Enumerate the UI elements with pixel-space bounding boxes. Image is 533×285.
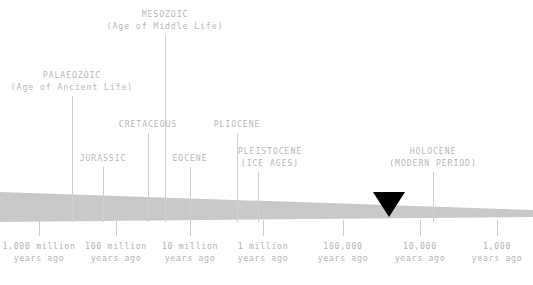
geological-timeline-figure: PALAEOZOIC(Age of Ancient Life)MESOZOIC(… xyxy=(0,0,533,285)
axis-tick-1000-million xyxy=(39,220,40,236)
era-label-line1: JURASSIC xyxy=(80,153,127,163)
axis-tick-1-thousand xyxy=(497,220,498,236)
axis-label-value: 1,000 million xyxy=(2,241,75,251)
era-label-pliocene: PLIOCENE xyxy=(214,119,261,131)
era-label-line1: EOCENE xyxy=(173,153,208,163)
axis-label-value: 1 million xyxy=(238,241,289,251)
era-label-holocene: HOLOCENE(MODERN PERIOD) xyxy=(389,146,476,169)
axis-tick-1-million xyxy=(263,220,264,236)
axis-label-value: 1,000 xyxy=(483,241,511,251)
era-label-eocene: EOCENE xyxy=(173,153,208,165)
axis-label-1000-million: 1,000 millionyears ago xyxy=(2,240,75,264)
leader-line-holocene xyxy=(433,172,434,222)
present-day-marker-icon xyxy=(373,192,405,217)
axis-label-unit: years ago xyxy=(162,252,218,264)
leader-line-eocene xyxy=(190,167,191,222)
axis-label-value: 100 million xyxy=(85,241,147,251)
axis-label-value: 10 million xyxy=(162,241,218,251)
leader-line-pleistocene xyxy=(258,172,259,222)
axis-tick-100-thousand xyxy=(343,220,344,236)
axis-label-unit: years ago xyxy=(472,252,523,264)
axis-label-100-thousand: 100,000years ago xyxy=(318,240,369,264)
era-label-line2: (Age of Middle Life) xyxy=(107,21,224,33)
era-label-mesozoic: MESOZOIC(Age of Middle Life) xyxy=(107,9,224,32)
axis-label-1-million: 1 millionyears ago xyxy=(238,240,289,264)
axis-tick-10-million xyxy=(190,220,191,236)
axis-label-unit: years ago xyxy=(85,252,147,264)
axis-label-unit: years ago xyxy=(318,252,369,264)
era-label-line1: MESOZOIC xyxy=(142,9,189,19)
era-label-line1: PALAEOZOIC xyxy=(43,70,101,80)
era-label-line1: HOLOCENE xyxy=(410,146,457,156)
axis-label-value: 10,000 xyxy=(403,241,437,251)
axis-label-10-thousand: 10,000years ago xyxy=(395,240,446,264)
era-label-line1: PLEISTOCENE xyxy=(238,146,302,156)
era-label-line1: PLIOCENE xyxy=(214,119,261,129)
axis-label-unit: years ago xyxy=(395,252,446,264)
axis-label-value: 100,000 xyxy=(323,241,362,251)
era-label-palaeozoic: PALAEOZOIC(Age of Ancient Life) xyxy=(11,70,133,93)
axis-tick-10-thousand xyxy=(420,220,421,236)
era-label-line2: (MODERN PERIOD) xyxy=(389,158,476,170)
era-label-line2: (Age of Ancient Life) xyxy=(11,82,133,94)
axis-label-unit: years ago xyxy=(2,252,75,264)
axis-label-unit: years ago xyxy=(238,252,289,264)
era-label-jurassic: JURASSIC xyxy=(80,153,127,165)
era-label-line1: CRETACEOUS xyxy=(119,119,177,129)
era-label-cretaceous: CRETACEOUS xyxy=(119,119,177,131)
leader-line-cretaceous xyxy=(148,133,149,222)
axis-tick-100-million xyxy=(116,220,117,236)
axis-label-10-million: 10 millionyears ago xyxy=(162,240,218,264)
era-label-pleistocene: PLEISTOCENE(ICE AGES) xyxy=(238,146,302,169)
leader-line-jurassic xyxy=(103,167,104,222)
era-label-line2: (ICE AGES) xyxy=(238,158,302,170)
axis-label-100-million: 100 millionyears ago xyxy=(85,240,147,264)
axis-label-1-thousand: 1,000years ago xyxy=(472,240,523,264)
leader-line-palaeozoic xyxy=(72,96,73,222)
